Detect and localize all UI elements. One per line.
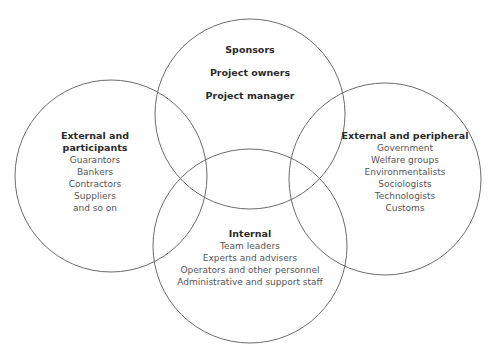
group-external-peripheral: External and peripheral Government Welfa… — [335, 130, 475, 214]
stakeholder-venn-diagram: Sponsors Project owners Project manager … — [0, 0, 500, 361]
list-item: Administrative and support staff — [170, 276, 330, 288]
heading-external-and-peripheral: External and peripheral — [335, 130, 475, 142]
heading-project-manager: Project manager — [170, 90, 330, 102]
list-item: Welfare groups — [335, 154, 475, 166]
list-item: Contractors — [45, 178, 145, 190]
heading-external-and: External and — [45, 130, 145, 142]
list-item: Sociologists — [335, 178, 475, 190]
list-item: and so on — [45, 202, 145, 214]
group-internal: Internal Team leaders Experts and advise… — [170, 228, 330, 288]
heading-sponsors: Sponsors — [170, 44, 330, 56]
list-item: Operators and other personnel — [170, 264, 330, 276]
list-item: Experts and advisers — [170, 252, 330, 264]
list-item: Environmentalists — [335, 166, 475, 178]
heading-project-owners: Project owners — [170, 67, 330, 79]
list-item: Bankers — [45, 166, 145, 178]
list-item: Government — [335, 142, 475, 154]
group-external-participants: External and participants Guarantors Ban… — [45, 130, 145, 214]
heading-internal: Internal — [170, 228, 330, 240]
list-item: Team leaders — [170, 240, 330, 252]
list-item: Suppliers — [45, 190, 145, 202]
list-item: Guarantors — [45, 154, 145, 166]
heading-participants: participants — [45, 142, 145, 154]
group-top: Sponsors Project owners Project manager — [170, 44, 330, 113]
list-item: Customs — [335, 202, 475, 214]
list-item: Technologists — [335, 190, 475, 202]
